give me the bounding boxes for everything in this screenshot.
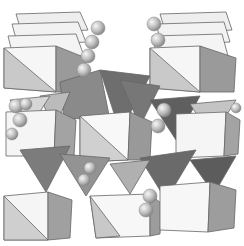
- crystal-structure-image: [0, 0, 244, 246]
- crystal-structure-drawing: [0, 0, 244, 246]
- octahedra-stack-top-right: [150, 12, 236, 92]
- octahedra-stack-bottom: [4, 182, 236, 240]
